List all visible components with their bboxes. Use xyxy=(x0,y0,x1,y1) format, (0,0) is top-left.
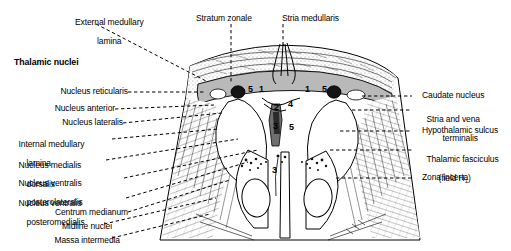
label-nucleus-anterior: Nucleus anterior xyxy=(8,104,115,114)
label-line-1: Nucleus ventralis xyxy=(19,198,82,208)
inline-number-2: 2 xyxy=(274,102,279,112)
label-hypothalamic-sulcus: Hypothalamic sulcus xyxy=(422,126,498,136)
caudate-nucleus-left xyxy=(231,86,245,98)
label-line-1: External medullary xyxy=(75,17,144,27)
label-nucleus-reticularis: Nucleus reticularis xyxy=(8,87,128,97)
label-external-medullary-lamina: External medullary lamina xyxy=(47,8,167,46)
label-nucleus-lateralis: Nucleus lateralis xyxy=(8,118,123,128)
inline-number-3: 3 xyxy=(273,121,278,131)
label-centrum-medianum: Centrum medianum xyxy=(8,208,128,218)
inline-number-5: 5 xyxy=(322,84,327,94)
label-zona-incerta: Zona incerta xyxy=(422,173,468,183)
caudate-nucleus-right xyxy=(327,86,341,98)
label-midline-nuclei: Midline nuclei xyxy=(8,222,112,232)
inline-number-5: 5 xyxy=(248,84,253,94)
label-stratum-zonale: Stratum zonale xyxy=(196,14,252,24)
label-stria-and-vena-terminalis: Stria and vena terminalis xyxy=(422,105,480,143)
section-heading-thalamic-nuclei: Thalamic nuclei xyxy=(14,58,79,68)
inline-number-1: 1 xyxy=(259,84,264,94)
label-massa-intermedia: Massa intermedia xyxy=(8,236,120,246)
label-line-1: Internal medullary xyxy=(19,139,85,149)
label-caudate-nucleus: Caudate nucleus xyxy=(422,91,484,101)
label-line-2: lamina xyxy=(97,36,121,46)
inline-number-1: 1 xyxy=(305,84,310,94)
label-line-1: Nucleus medialis xyxy=(19,160,82,170)
lateral-ventricle-left xyxy=(210,89,226,99)
inline-number-5: 5 xyxy=(289,122,294,132)
label-stria-medullaris: Stria medullaris xyxy=(282,14,339,24)
lateral-ventricle-right xyxy=(347,90,365,100)
label-line-1: Nucleus ventralis xyxy=(19,178,82,188)
label-line-1: Stria and vena xyxy=(427,114,480,124)
inline-number-3: 3 xyxy=(272,165,277,175)
inline-number-4: 4 xyxy=(288,99,293,109)
label-line-1: Thalamic fasciculus xyxy=(426,154,498,164)
